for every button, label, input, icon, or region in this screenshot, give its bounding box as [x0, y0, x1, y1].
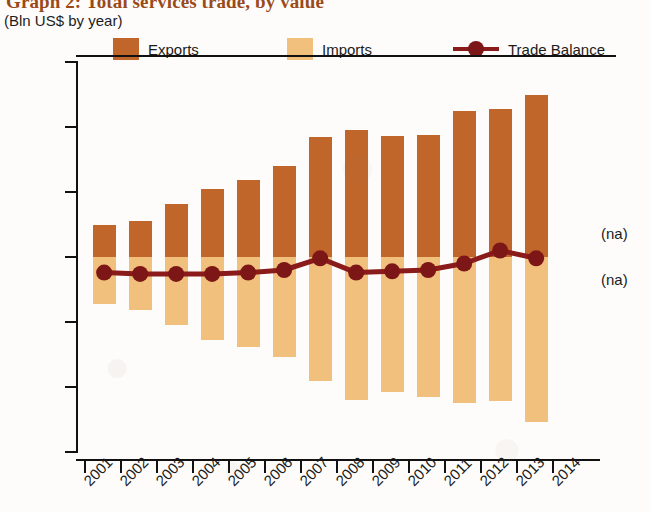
trade-balance-point — [312, 250, 328, 266]
trade-balance-point — [528, 250, 544, 266]
trade-balance-point — [492, 243, 508, 259]
trade-balance-point — [420, 262, 436, 278]
annotation-na-below: (na) — [601, 271, 628, 288]
trade-balance-point — [132, 266, 148, 282]
trade-balance-point — [384, 263, 400, 279]
trade-balance-series — [78, 55, 598, 455]
trade-balance-point — [276, 262, 292, 278]
plot-area: 150100500-50-100-150 2001200220032004200… — [78, 55, 598, 455]
x-axis — [76, 459, 600, 461]
y-tick — [65, 126, 78, 128]
trade-balance-point — [168, 266, 184, 282]
y-tick — [65, 191, 78, 193]
trade-balance-point — [96, 265, 112, 281]
annotation-na-above: (na) — [601, 225, 628, 242]
y-tick — [65, 386, 78, 388]
trade-balance-point — [240, 265, 256, 281]
y-tick — [65, 61, 78, 63]
trade-balance-point — [456, 256, 472, 272]
trade-balance-point — [348, 265, 364, 281]
y-tick — [65, 451, 78, 453]
trade-balance-point — [204, 266, 220, 282]
y-tick — [65, 321, 78, 323]
chart-subtitle: (Bln US$ by year) — [4, 12, 122, 29]
y-tick — [65, 256, 78, 258]
